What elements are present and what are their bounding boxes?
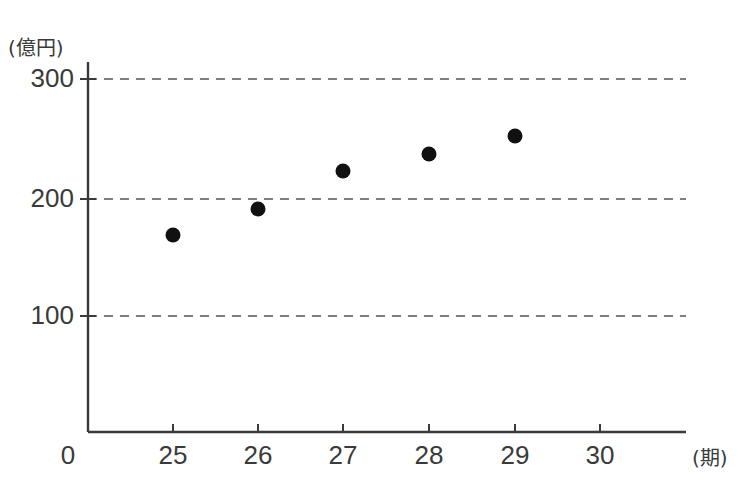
data-points (166, 129, 523, 243)
x-tick-label-28: 28 (399, 440, 459, 471)
y-tick-label-300: 300 (2, 63, 74, 94)
x-tick-label-26: 26 (228, 440, 288, 471)
x-tick-label-25: 25 (143, 440, 203, 471)
y-axis (80, 62, 96, 432)
x-tick-label-29: 29 (485, 440, 545, 471)
data-point (166, 228, 181, 243)
chart-canvas (0, 0, 749, 496)
x-tick-label-30: 30 (570, 440, 630, 471)
y-tick-label-200: 200 (2, 183, 74, 214)
data-point (422, 147, 437, 162)
x-tick-label-27: 27 (313, 440, 373, 471)
data-point (251, 202, 266, 217)
scatter-chart: (億円) 300 200 100 0 25 26 27 28 29 30 (期) (0, 0, 749, 496)
y-axis-unit-label: (億円) (8, 32, 64, 61)
y-tick-label-100: 100 (2, 300, 74, 331)
gridlines (88, 79, 686, 316)
data-point (336, 164, 351, 179)
x-origin-label: 0 (48, 440, 88, 471)
x-axis (88, 424, 686, 432)
data-point (508, 129, 523, 144)
x-axis-unit-label: (期) (692, 442, 728, 471)
